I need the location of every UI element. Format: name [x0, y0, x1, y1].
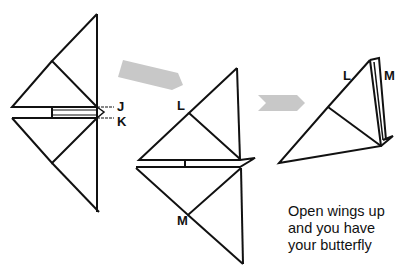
step-1-figure: [12, 14, 114, 212]
arrow-right-icon: [258, 95, 305, 111]
caption-line-3: your butterfly: [288, 237, 404, 254]
label-m-step3: M: [384, 69, 395, 82]
label-l-step3: L: [343, 69, 351, 82]
caption: Open wings up and you have your butterfl…: [288, 203, 404, 254]
arrow-right-icon: [118, 60, 183, 90]
step-2-figure: [136, 68, 255, 264]
caption-line-2: and you have: [288, 220, 404, 237]
label-l-step2: L: [177, 99, 185, 112]
label-k: K: [117, 115, 126, 128]
label-m-step2: M: [177, 214, 188, 227]
caption-line-1: Open wings up: [288, 203, 404, 220]
label-j: J: [117, 100, 124, 113]
